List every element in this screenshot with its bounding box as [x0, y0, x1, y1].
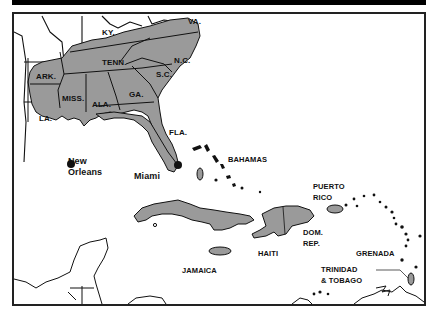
cuba	[134, 200, 254, 230]
label-ky: KY.	[102, 28, 115, 37]
label-va: VA.	[188, 17, 201, 26]
southeast-region	[28, 18, 200, 166]
label-ala: ALA.	[92, 100, 111, 109]
label-puerto-rico-1: PUERTO	[313, 182, 345, 191]
miami-marker	[174, 161, 182, 169]
label-dom-rep-1: DOM.	[303, 228, 323, 237]
label-haiti: HAITI	[258, 249, 278, 258]
label-fla: FLA.	[169, 128, 187, 137]
label-la: LA.	[39, 114, 52, 123]
label-dom-rep-2: REP.	[303, 239, 320, 248]
label-puerto-rico-2: RICO	[313, 193, 332, 202]
jamaica	[209, 247, 231, 255]
label-trinidad-1: TRINIDAD	[321, 265, 358, 274]
label-miss: MISS.	[62, 94, 84, 103]
yucatan-outline	[14, 238, 108, 304]
label-new-orleans-2: Orleans	[68, 167, 102, 177]
label-new-orleans-1: New	[68, 156, 87, 166]
puerto-rico	[327, 205, 343, 213]
trinidad	[408, 273, 414, 285]
map-frame: KY. VA. TENN. N.C. ARK. S.C. MISS. ALA. …	[12, 12, 426, 306]
label-nc: N.C.	[174, 56, 190, 65]
label-bahamas: BAHAMAS	[228, 155, 267, 164]
label-tenn: TENN.	[102, 58, 127, 67]
label-ga: GA.	[129, 90, 144, 99]
label-sc: S.C.	[156, 70, 172, 79]
south-america-coast	[292, 286, 424, 304]
bahamas-islands	[192, 144, 261, 193]
label-trinidad-2: & TOBAGO	[321, 276, 362, 285]
label-grenada: GRENADA	[356, 249, 395, 258]
label-jamaica: JAMAICA	[182, 266, 217, 275]
label-miami: Miami	[134, 171, 160, 181]
trinidad-leader-line	[376, 270, 408, 278]
map-title-bar	[12, 0, 426, 5]
label-ark: ARK.	[36, 72, 56, 81]
